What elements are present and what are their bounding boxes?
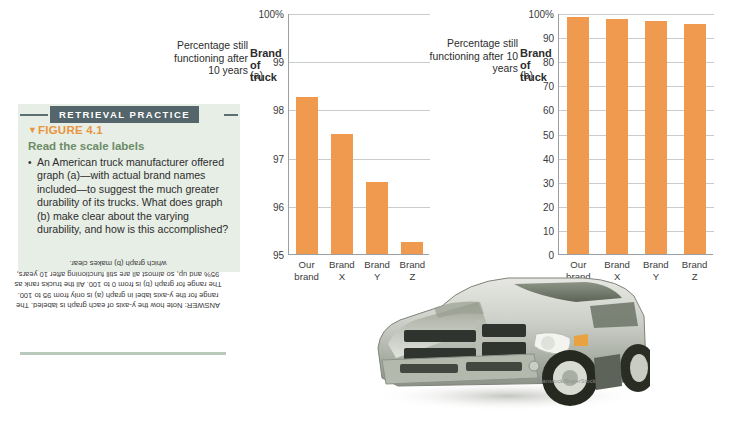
bar xyxy=(684,24,706,254)
x-axis-tick-label: Ourbrand xyxy=(294,259,319,282)
chart-a-plot-area: 9596979899100%OurbrandBrandXBrandYBrandZ xyxy=(288,14,429,255)
bumper-vent-left xyxy=(400,364,458,373)
retrieval-practice-question: • An American truck manufacturer offered… xyxy=(28,156,230,236)
bar xyxy=(606,19,628,254)
truck-photo-svg xyxy=(338,262,650,414)
grille-upper-left xyxy=(404,330,476,342)
chart-b-plot-area: 0102030405060708090100%OurbrandBrandXBra… xyxy=(558,14,713,255)
retrieval-practice-banner-row: RETRIEVAL PRACTICE xyxy=(18,106,240,123)
figure-title: Read the scale labels xyxy=(28,140,144,152)
mud-flap xyxy=(594,354,622,390)
bar xyxy=(567,17,589,254)
y-axis-tick-label: 50 xyxy=(543,129,554,140)
x-axis-tick-label: BrandZ xyxy=(682,259,708,282)
y-axis-tick-label: 96 xyxy=(273,201,284,212)
banner-rule-left xyxy=(20,114,48,116)
answer-underline xyxy=(20,352,226,355)
y-axis-tick-label: 20 xyxy=(543,201,554,212)
y-axis-tick-label: 98 xyxy=(273,105,284,116)
bar xyxy=(296,97,318,254)
grille-upper-right xyxy=(482,324,526,337)
figure-number: FIGURE 4.1 xyxy=(38,124,103,136)
truck-photo xyxy=(338,262,650,414)
side-window xyxy=(590,302,638,328)
bullet-icon: • xyxy=(28,156,32,169)
photo-credit: Transtock/SuperStock xyxy=(537,378,596,384)
bar xyxy=(331,134,353,255)
retrieval-practice-banner: RETRIEVAL PRACTICE xyxy=(50,106,199,123)
question-text: An American truck manufacturer offered g… xyxy=(28,156,230,236)
y-axis-tick-label: 30 xyxy=(543,177,554,188)
y-axis-tick-label: 97 xyxy=(273,153,284,164)
fog-lamp xyxy=(529,361,539,371)
bar xyxy=(645,21,667,254)
banner-rule-right xyxy=(224,114,238,116)
turn-signal xyxy=(574,334,588,346)
y-axis-tick-label: 0 xyxy=(548,250,554,261)
figure-label: ▼FIGURE 4.1 xyxy=(28,124,103,136)
figure-page: RETRIEVAL PRACTICE ▼FIGURE 4.1 Read the … xyxy=(0,0,747,423)
bar xyxy=(401,242,423,254)
gridline xyxy=(289,62,430,63)
triangle-down-icon: ▼ xyxy=(28,125,37,135)
bumper-vent-right xyxy=(466,362,522,371)
y-axis-tick-label: 40 xyxy=(543,153,554,164)
y-axis-tick-label: 60 xyxy=(543,105,554,116)
y-axis-tick-label: 90 xyxy=(543,33,554,44)
bar xyxy=(366,182,388,254)
gridline xyxy=(289,14,430,15)
y-axis-tick-label: 10 xyxy=(543,225,554,236)
headlight-lamp xyxy=(541,336,555,350)
retrieval-practice-answer: ANSWER: Note how the y-axis of each grap… xyxy=(12,258,224,310)
gridline xyxy=(559,14,714,15)
chart-b-y-axis-caption: Percentage still functioning after 10 ye… xyxy=(420,38,518,76)
y-axis-tick-label: 95 xyxy=(273,250,284,261)
y-axis-tick-label: 100% xyxy=(528,9,554,20)
chart-a-y-axis-caption: Percentage still functioning after 10 ye… xyxy=(174,40,248,78)
retrieval-practice-box: RETRIEVAL PRACTICE ▼FIGURE 4.1 Read the … xyxy=(18,104,240,272)
y-axis-tick-label: 100% xyxy=(258,9,284,20)
